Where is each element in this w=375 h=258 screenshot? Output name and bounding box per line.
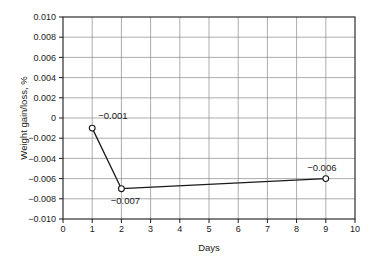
y-tick-label: −0.010: [28, 214, 56, 224]
y-tick-label: −0.008: [28, 194, 56, 204]
data-point-label: −0.001: [98, 110, 127, 121]
y-tick-label: −0.006: [28, 174, 56, 184]
data-point-marker: [89, 125, 95, 131]
x-tick-label: 9: [323, 224, 328, 234]
y-tick-label: −0.004: [28, 154, 56, 164]
data-point-label: −0.006: [307, 162, 336, 173]
y-axis-title: Weight gain/loss, %: [18, 76, 29, 160]
x-tick-label: 5: [206, 224, 211, 234]
x-tick-label: 0: [60, 224, 65, 234]
x-tick-label: 6: [236, 224, 241, 234]
data-point-marker: [323, 176, 329, 182]
y-tick-label: 0.002: [33, 93, 56, 103]
x-tick-label: 3: [148, 224, 153, 234]
x-tick-label: 10: [350, 224, 360, 234]
y-tick-label: 0.010: [33, 12, 56, 22]
x-tick-label: 4: [177, 224, 182, 234]
x-tick-label: 7: [265, 224, 270, 234]
line-chart: 012345678910 0.0100.0080.0060.0040.0020−…: [0, 0, 375, 258]
x-tick-label: 2: [119, 224, 124, 234]
y-tick-label: −0.002: [28, 133, 56, 143]
x-tick-label: 8: [294, 224, 299, 234]
data-point-marker: [119, 186, 125, 192]
y-tick-label: 0: [51, 113, 56, 123]
data-point-label: −0.007: [111, 195, 140, 206]
chart-figure: 012345678910 0.0100.0080.0060.0040.0020−…: [0, 0, 375, 258]
x-tick-label: 1: [90, 224, 95, 234]
x-axis-title: Days: [198, 242, 220, 253]
y-tick-label: 0.004: [33, 73, 56, 83]
y-tick-label: 0.006: [33, 53, 56, 63]
y-tick-label: 0.008: [33, 32, 56, 42]
